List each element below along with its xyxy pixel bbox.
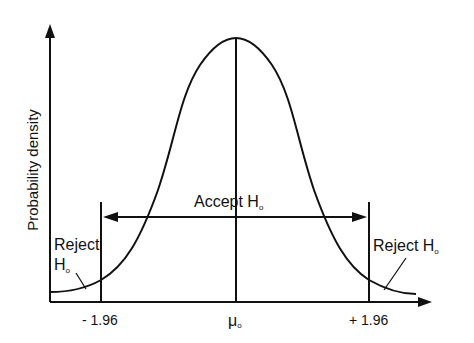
y-axis-label: Probability density	[24, 109, 41, 231]
reject-left-label-line1: Reject	[54, 236, 100, 253]
reject-left-pointer	[76, 273, 86, 289]
tick-label-center: μo	[228, 312, 242, 330]
accept-arrow-right-icon	[352, 212, 367, 222]
tick-label-left: - 1.96	[82, 312, 118, 328]
normal-curve	[50, 38, 416, 294]
tick-label-right: + 1.96	[349, 312, 389, 328]
x-axis-arrow-icon	[418, 297, 432, 307]
accept-arrow-left-icon	[103, 212, 118, 222]
reject-right-label: Reject Ho	[373, 237, 439, 256]
y-axis-arrow-icon	[45, 24, 55, 38]
normal-distribution-diagram: Probability density Accept Ho Reject Ho …	[0, 0, 474, 343]
accept-label: Accept Ho	[194, 193, 264, 212]
reject-right-pointer	[384, 258, 406, 290]
reject-left-label-line2: Ho	[54, 256, 71, 275]
